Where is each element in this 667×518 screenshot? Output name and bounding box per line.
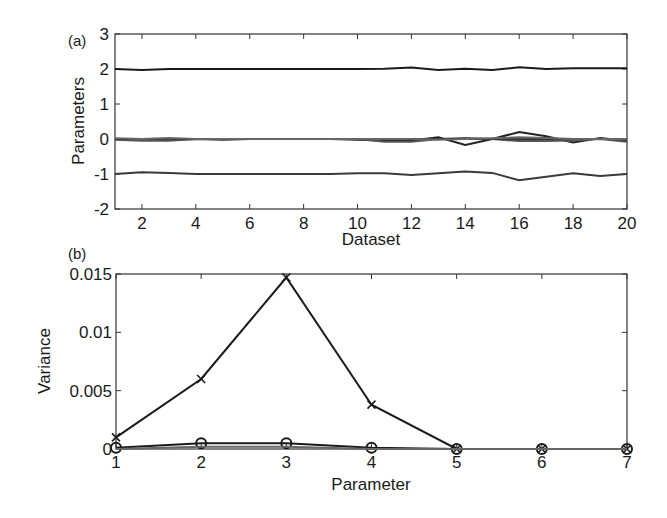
panel-b-xlabel: Parameter bbox=[331, 475, 411, 494]
panel-b-ytick-label: 0.015 bbox=[69, 265, 112, 284]
panel-a-xtick-label: 18 bbox=[564, 214, 583, 233]
panel-b: (b) 1234567 00.0050.010.015 Parameter Va… bbox=[35, 245, 632, 494]
panel-a-ytick-label: 3 bbox=[100, 25, 109, 44]
panel-a-label: (a) bbox=[68, 32, 86, 49]
panel-b-label: (b) bbox=[68, 245, 86, 262]
panel-b-frame bbox=[116, 274, 627, 449]
panel-a-xtick-label: 4 bbox=[191, 214, 200, 233]
panel-b-x-marker bbox=[368, 401, 376, 409]
panel-b-xtick-label: 4 bbox=[367, 453, 376, 472]
panel-a-frame bbox=[115, 34, 627, 209]
panel-b-xtick-label: 7 bbox=[622, 453, 631, 472]
panel-a-series-p1 bbox=[115, 67, 627, 70]
panel-b-xtick-label: 1 bbox=[111, 453, 120, 472]
panel-b-x-marker bbox=[197, 375, 205, 383]
panel-b-ytick-label: 0.005 bbox=[69, 382, 112, 401]
panel-b-xtick-label: 3 bbox=[282, 453, 291, 472]
panel-a-xtick-label: 20 bbox=[618, 214, 637, 233]
panel-b-series-line bbox=[116, 278, 627, 450]
panel-b-ytick-label: 0.01 bbox=[79, 323, 112, 342]
panel-a-ytick-label: 0 bbox=[100, 130, 109, 149]
panel-a-xtick-label: 6 bbox=[245, 214, 254, 233]
panel-a-series-p7 bbox=[115, 172, 627, 181]
panel-a-xtick-label: 8 bbox=[299, 214, 308, 233]
panel-b-ylabel: Variance bbox=[35, 328, 54, 394]
panel-a-ytick-label: -1 bbox=[94, 165, 109, 184]
panel-a-ytick-label: 1 bbox=[100, 95, 109, 114]
panel-a-xtick-label: 16 bbox=[510, 214, 529, 233]
panel-a-ylabel: Parameters bbox=[69, 77, 88, 165]
panel-b-xtick-label: 5 bbox=[452, 453, 461, 472]
panel-a-xtick-label: 2 bbox=[137, 214, 146, 233]
panel-b-xtick-label: 2 bbox=[196, 453, 205, 472]
panel-a-xtick-label: 14 bbox=[456, 214, 475, 233]
panel-a-xtick-label: 12 bbox=[402, 214, 421, 233]
figure: (a) 2468101214161820 -2-10123 Dataset Pa… bbox=[0, 0, 667, 518]
panel-a-ytick-label: -2 bbox=[94, 200, 109, 219]
panel-a-ytick-label: 2 bbox=[100, 60, 109, 79]
panel-a-xlabel: Dataset bbox=[342, 230, 401, 249]
panel-a: (a) 2468101214161820 -2-10123 Dataset Pa… bbox=[68, 25, 636, 249]
panel-b-xtick-label: 6 bbox=[537, 453, 546, 472]
